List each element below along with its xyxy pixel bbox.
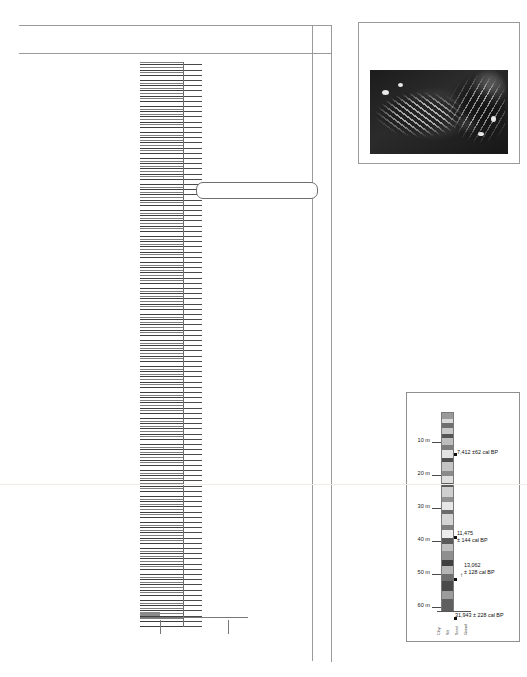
inset-lithology-layer <box>442 487 453 497</box>
core-inset-grain-labels: ClaySiltSandGravel <box>437 615 507 637</box>
inset-depth-tick <box>432 574 441 575</box>
grain-scale-tick-left <box>160 620 161 634</box>
core-log-figure: 10 m20 m30 m40 m50 m60 m 7,412 ±62 cal B… <box>0 0 527 677</box>
inset-depth-tick <box>432 475 441 476</box>
inset-lithology-layer <box>442 438 453 445</box>
inset-lithology-layer <box>442 502 453 510</box>
inset-date-line: ± 128 cal BP <box>464 569 495 576</box>
grain-scale-tick-right <box>228 620 229 634</box>
grain-scale-line <box>140 617 248 618</box>
card-core-line <box>367 43 374 52</box>
inset-date-line: 7,412 ±62 cal BP <box>457 449 498 456</box>
inset-lithology-layer <box>442 476 453 483</box>
column-divider-1 <box>312 25 313 661</box>
inset-lithology-layer <box>442 581 453 591</box>
grain-size-scale <box>140 612 280 654</box>
inset-grain-label: Gravel <box>464 624 468 635</box>
inset-date-label: 13,062± 128 cal BP <box>464 562 495 576</box>
inset-date-marker <box>454 578 457 581</box>
location-caption <box>359 56 519 66</box>
inset-depth-tick-label: 50 m <box>418 569 430 575</box>
inset-depth-tick <box>432 607 441 608</box>
title-card <box>358 22 520 164</box>
column-divider-2 <box>331 25 332 661</box>
grain-scale-sand-labels <box>167 633 227 642</box>
grain-scale-mud-bar <box>140 612 160 616</box>
inset-date-arrow-icon: ↑ <box>460 572 463 578</box>
core-summary-card: 10 m20 m30 m40 m50 m60 m 7,412 ±62 cal B… <box>406 392 520 642</box>
depth-axis <box>19 55 81 635</box>
inset-lithology-layer <box>442 574 453 581</box>
core-inset-depth-axis: 10 m20 m30 m40 m50 m60 m <box>425 412 441 610</box>
map-island <box>398 83 403 87</box>
lithology-log-column <box>140 62 202 627</box>
inset-depth-tick-label: 60 m <box>418 602 430 608</box>
log-inner-rule <box>183 62 184 627</box>
inset-lithology-layer <box>442 599 453 611</box>
inset-lithology-layer <box>442 551 453 560</box>
inset-depth-tick-label: 10 m <box>418 437 430 443</box>
inset-depth-tick-label: 40 m <box>418 536 430 542</box>
page-seam <box>0 484 527 485</box>
grain-scale-ticks <box>167 620 225 633</box>
core-photo-column <box>74 62 104 627</box>
inset-date-line: 13,062 <box>464 562 495 569</box>
inset-date-line: ± 144 cal BP <box>457 537 488 544</box>
note-box <box>196 182 318 199</box>
inset-date-label: 11,475± 144 cal BP <box>457 530 488 544</box>
inset-date-label: 7,412 ±62 cal BP <box>457 449 498 456</box>
inset-lithology-layer <box>442 530 453 538</box>
core-inset-lithology-column <box>441 412 454 612</box>
inset-depth-tick-label: 20 m <box>418 470 430 476</box>
satellite-location-map <box>370 70 508 154</box>
header-rule <box>19 53 331 54</box>
inset-depth-tick <box>432 508 441 509</box>
grain-scale-class-labels <box>140 642 265 654</box>
inset-grain-label: Clay <box>437 627 441 635</box>
inset-depth-tick-label: 30 m <box>418 503 430 509</box>
log-right-hatch <box>183 62 202 627</box>
inset-lithology-layer <box>442 462 453 471</box>
inset-depth-tick <box>432 442 441 443</box>
map-coastline <box>445 75 506 149</box>
inset-date-line: 11,475 <box>457 530 488 537</box>
map-island <box>478 132 484 136</box>
inset-lithology-layer <box>442 566 453 574</box>
inset-depth-tick <box>432 541 441 542</box>
inset-lithology-layer <box>442 544 453 551</box>
inset-lithology-layer <box>442 591 453 599</box>
inset-grain-label: Silt <box>446 630 450 635</box>
core-inset-foot-rule <box>437 611 471 612</box>
inset-lithology-layer <box>442 514 453 525</box>
log-laminations <box>140 62 183 627</box>
inset-grain-label: Sand <box>455 626 459 635</box>
inset-lithology-layer <box>442 450 453 458</box>
